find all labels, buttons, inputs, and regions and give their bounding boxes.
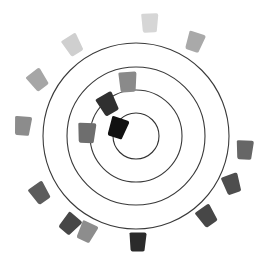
swatch-right [236, 140, 254, 160]
ring-4 [43, 43, 229, 229]
swatch-top [141, 13, 159, 33]
swatch-wheel-diagram [0, 0, 274, 256]
swatch-inner-left [78, 123, 97, 144]
swatch-lower-left [28, 180, 53, 205]
swatch-inner-upper [118, 71, 137, 92]
swatch-inner-black [106, 116, 129, 141]
swatch-top-left [61, 32, 85, 57]
wheel-canvas [0, 0, 274, 256]
swatch-bottom-right [195, 203, 220, 228]
swatch-lower-right [221, 172, 243, 196]
swatch-bottom [130, 233, 147, 252]
swatch-upper-left [25, 67, 50, 92]
swatch-top-right [184, 30, 206, 53]
swatch-left [14, 116, 32, 136]
swatch-inner-dark [95, 91, 121, 117]
